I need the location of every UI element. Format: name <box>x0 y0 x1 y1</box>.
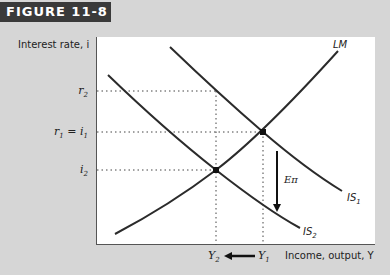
is1-label: IS1 <box>347 192 361 206</box>
tick-y1: Y1 <box>258 249 270 264</box>
tick-i2: i2 <box>58 163 88 178</box>
is2-curve <box>108 75 300 228</box>
tick-r1-i1: r1 = i1 <box>30 125 88 140</box>
lm-label: LM <box>333 39 347 50</box>
x-axis-label: Income, output, Y <box>285 250 374 261</box>
output-arrow-head <box>224 252 232 260</box>
tick-r2: r2 <box>58 84 88 99</box>
expected-inflation-label: Eπ <box>284 174 298 185</box>
shift-arrow-head <box>273 204 281 212</box>
lm-curve <box>115 51 338 234</box>
tick-y2: Y2 <box>208 249 220 264</box>
equilibrium-point-2 <box>213 167 219 173</box>
is2-label: IS2 <box>303 226 317 240</box>
is1-curve <box>170 47 342 191</box>
equilibrium-point-1 <box>260 129 266 135</box>
